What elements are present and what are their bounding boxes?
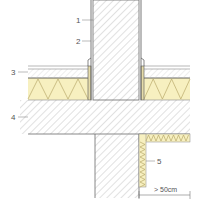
label-5: 5 — [157, 157, 162, 166]
detail-drawing: 1 2 3 4 5 > 50cm — [0, 0, 208, 204]
edge-strip-right — [141, 66, 144, 100]
dimension-label: > 50cm — [154, 186, 177, 193]
section-svg: 1 2 3 4 5 > 50cm — [0, 0, 208, 204]
label-2: 2 — [76, 37, 81, 46]
skirting-right — [141, 58, 144, 66]
floor-screed-left — [28, 66, 88, 78]
floor-insulation-right — [144, 78, 190, 100]
concrete-slab — [20, 100, 190, 134]
floor-insulation-left — [28, 78, 88, 100]
label-1: 1 — [76, 16, 81, 25]
flanking-insulation-strip — [139, 134, 190, 187]
label-4: 4 — [11, 113, 16, 122]
lower-wall — [95, 134, 139, 198]
label-3: 3 — [11, 68, 16, 77]
skirting-left — [88, 58, 91, 66]
edge-strip-left — [88, 66, 91, 100]
upper-wall — [93, 0, 139, 100]
floor-screed-right — [144, 66, 190, 78]
